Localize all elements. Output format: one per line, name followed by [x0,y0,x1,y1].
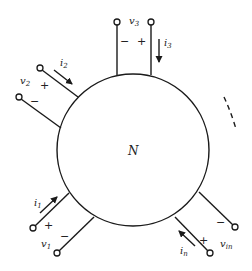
port-n-minus-terminal [232,224,238,230]
port-n-current-arrow-icon [179,231,195,246]
port-1-current-label: i1 [34,197,42,210]
port-2: v2 + − i2 [16,57,78,128]
port-2-voltage-label: v2 [20,75,31,88]
port-3-plus-sign: + [137,35,146,48]
port-n-voltage-label: vin [220,238,233,251]
port-n-current-label: in [180,245,188,258]
port-1-plus-terminal [30,225,36,231]
port-n-minus-sign: − [216,216,225,229]
port-2-plus-sign: + [40,79,49,92]
network-label: N [127,144,139,158]
port-1-voltage-label: v1 [41,238,51,251]
port-n-plus-sign: + [199,234,208,247]
port-1-current-arrow-icon [40,197,57,213]
port-n-plus-terminal [207,250,213,256]
port-3-minus-terminal [114,19,120,25]
n-port-network-diagram: N v3 − + i3 v2 + − i2 i1 + − v1 [0,0,252,271]
port-3-minus-sign: − [120,35,129,48]
ellipsis-dashed-arc [224,97,236,129]
port-2-minus-lead [21,99,61,128]
port-2-current-arrow-icon [54,70,72,84]
port-2-current-label: i2 [60,57,68,70]
port-2-minus-sign: − [30,95,39,108]
port-2-plus-terminal [37,65,43,71]
port-1: i1 + − v1 [30,193,94,256]
port-3: v3 − + i3 [114,15,172,75]
port-1-plus-sign: + [44,219,53,232]
port-1-minus-terminal [54,250,60,256]
port-3-voltage-label: v3 [129,15,140,28]
port-2-minus-terminal [16,94,22,100]
port-3-current-label: i3 [164,37,172,50]
port-n: − + vin in [175,192,238,258]
port-3-plus-terminal [148,19,154,25]
port-1-minus-sign: − [60,230,69,243]
